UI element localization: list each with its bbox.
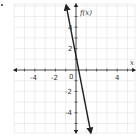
origin-label: 0 — [69, 73, 73, 81]
x-axis-label: x — [130, 59, 134, 67]
tick-label-x-4: 4 — [115, 74, 120, 82]
tick-label-x-neg2: -2 — [51, 74, 58, 82]
tick-label-y-neg2: -2 — [65, 88, 72, 96]
tick-label-y-4: 4 — [68, 24, 73, 32]
tick-label-x-neg4: -4 — [30, 74, 38, 82]
tick-label-y-2: 2 — [68, 45, 72, 53]
tick-label-y-neg4: -4 — [65, 109, 73, 117]
y-axis-label: f(x) — [79, 9, 92, 17]
function-graph: -4 -2 0 4 4 2 -2 -4 x f(x) — [0, 0, 138, 136]
